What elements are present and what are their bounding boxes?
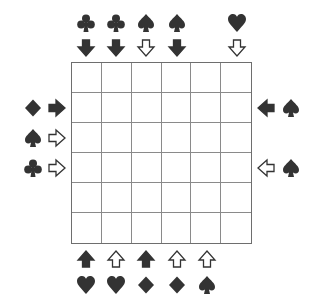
arrow-left-outline-icon — [255, 157, 277, 179]
arrow-right-outline-icon — [46, 157, 68, 179]
grid-cell-r5-c3[interactable] — [132, 183, 162, 213]
grid-cell-r3-c4[interactable] — [162, 123, 192, 153]
grid-cell-r6-c5[interactable] — [191, 213, 221, 243]
arrow-left-filled-icon — [255, 97, 277, 119]
grid-cell-r5-c4[interactable] — [162, 183, 192, 213]
arrow-down-outline-icon — [226, 37, 248, 59]
arrow-up-outline-icon — [166, 248, 188, 270]
diamond-icon — [22, 97, 44, 119]
grid-cell-r2-c6[interactable] — [221, 93, 251, 123]
grid-cell-r1-c4[interactable] — [162, 63, 192, 93]
grid-cell-r4-c5[interactable] — [191, 153, 221, 183]
grid-cell-r1-c1[interactable] — [72, 63, 102, 93]
grid-cell-r4-c4[interactable] — [162, 153, 192, 183]
spade-icon — [196, 274, 218, 296]
grid-cell-r3-c2[interactable] — [102, 123, 132, 153]
grid-cell-r5-c6[interactable] — [221, 183, 251, 213]
club-icon — [105, 12, 127, 34]
grid-cell-r6-c1[interactable] — [72, 213, 102, 243]
arrow-down-filled-icon — [105, 37, 127, 59]
grid-cell-r2-c3[interactable] — [132, 93, 162, 123]
heart-icon — [75, 274, 97, 296]
diamond-icon — [166, 274, 188, 296]
arrow-up-outline-icon — [105, 248, 127, 270]
grid-cell-r1-c2[interactable] — [102, 63, 132, 93]
arrow-up-filled-icon — [75, 248, 97, 270]
grid-cell-r2-c4[interactable] — [162, 93, 192, 123]
grid-cell-r6-c2[interactable] — [102, 213, 132, 243]
arrow-right-filled-icon — [46, 97, 68, 119]
grid-cell-r2-c2[interactable] — [102, 93, 132, 123]
grid-cell-r4-c1[interactable] — [72, 153, 102, 183]
grid-cell-r3-c1[interactable] — [72, 123, 102, 153]
grid-cell-r6-c3[interactable] — [132, 213, 162, 243]
grid-cell-r1-c6[interactable] — [221, 63, 251, 93]
spade-icon — [166, 12, 188, 34]
grid-cell-r2-c1[interactable] — [72, 93, 102, 123]
arrow-up-outline-icon — [196, 248, 218, 270]
grid-cell-r4-c2[interactable] — [102, 153, 132, 183]
grid-cell-r5-c1[interactable] — [72, 183, 102, 213]
grid-cell-r1-c3[interactable] — [132, 63, 162, 93]
grid-cell-r6-c6[interactable] — [221, 213, 251, 243]
club-icon — [22, 157, 44, 179]
arrow-down-filled-icon — [75, 37, 97, 59]
spade-icon — [22, 127, 44, 149]
arrow-right-outline-icon — [46, 127, 68, 149]
spade-icon — [135, 12, 157, 34]
arrow-up-filled-icon — [135, 248, 157, 270]
grid-cell-r2-c5[interactable] — [191, 93, 221, 123]
grid-cell-r3-c6[interactable] — [221, 123, 251, 153]
spade-icon — [280, 157, 302, 179]
grid-cell-r1-c5[interactable] — [191, 63, 221, 93]
grid-cell-r3-c3[interactable] — [132, 123, 162, 153]
arrow-down-outline-icon — [135, 37, 157, 59]
grid-cell-r5-c2[interactable] — [102, 183, 132, 213]
spade-icon — [280, 97, 302, 119]
club-icon — [75, 12, 97, 34]
heart-icon — [105, 274, 127, 296]
grid-cell-r4-c6[interactable] — [221, 153, 251, 183]
grid-cell-r6-c4[interactable] — [162, 213, 192, 243]
diamond-icon — [135, 274, 157, 296]
grid-cell-r5-c5[interactable] — [191, 183, 221, 213]
heart-icon — [226, 12, 248, 34]
arrow-down-filled-icon — [166, 37, 188, 59]
puzzle-grid — [71, 62, 252, 244]
grid-cell-r3-c5[interactable] — [191, 123, 221, 153]
grid-cell-r4-c3[interactable] — [132, 153, 162, 183]
